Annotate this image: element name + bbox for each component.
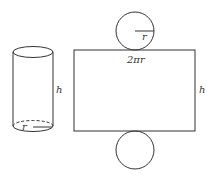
cylinder (13, 47, 53, 132)
cylinder-radius-label: r (22, 121, 28, 132)
cylinder-net-diagram: r h r 2πr h (0, 0, 207, 179)
cylinder-bottom-back-arc-dashed (13, 121, 53, 126)
net-bottom-circle (116, 131, 154, 169)
cylinder-net (74, 12, 195, 169)
net-rectangle-width-label: 2πr (126, 54, 146, 65)
net-top-radius-label: r (142, 31, 148, 42)
cylinder-top-ellipse (13, 47, 53, 58)
cylinder-height-label: h (56, 84, 62, 95)
net-rectangle-height-label: h (199, 84, 205, 95)
